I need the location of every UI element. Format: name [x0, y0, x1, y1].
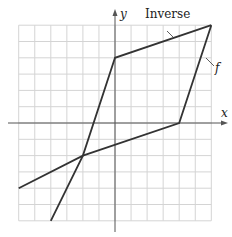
f-label: f [214, 61, 222, 75]
y-axis-label: y [119, 7, 127, 21]
inverse-leader [167, 31, 173, 37]
graph: Inverse f x y [0, 0, 232, 237]
inverse-label: Inverse [145, 7, 190, 21]
x-axis-label: x [221, 106, 228, 120]
f-leader [206, 58, 214, 66]
